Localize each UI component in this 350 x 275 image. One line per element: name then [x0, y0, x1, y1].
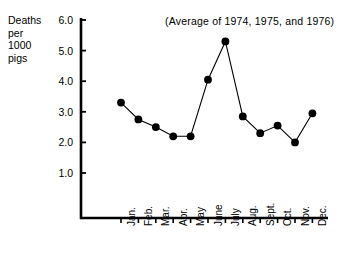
x-tick-label: July: [230, 208, 241, 226]
axes: [80, 18, 328, 219]
data-point: [239, 112, 247, 120]
data-point: [204, 76, 212, 84]
y-tick-label: 4.0: [47, 75, 73, 87]
x-tick-label: June: [213, 204, 224, 226]
x-tick-label: Dec.: [317, 205, 328, 226]
y-tick-label: 5.0: [47, 45, 73, 57]
x-tick-label: Oct.: [282, 208, 293, 226]
x-tick-label: Jan.: [126, 207, 137, 226]
data-point: [187, 132, 195, 140]
data-point: [152, 123, 160, 131]
data-point: [169, 132, 177, 140]
data-point: [222, 38, 230, 46]
y-tick-label: 3.0: [47, 106, 73, 118]
x-tick-label: Mar.: [160, 207, 171, 226]
y-tick-label: 2.0: [47, 136, 73, 148]
data-point: [135, 116, 143, 124]
y-tick-label: 1.0: [47, 167, 73, 179]
x-tick-label: Apr.: [178, 208, 189, 226]
data-series-line: [121, 41, 312, 142]
data-point: [309, 109, 317, 117]
x-tick-label: Sept.: [265, 203, 276, 226]
data-series-markers: [117, 38, 316, 147]
x-tick-label: Aug.: [247, 205, 258, 226]
data-point: [256, 129, 264, 137]
x-tick-label: Nov.: [300, 206, 311, 226]
data-point: [291, 139, 299, 147]
chart-figure: Deaths per 1000 pigs (Average of 1974, 1…: [0, 0, 350, 275]
data-point: [117, 99, 125, 107]
x-tick-label: May: [195, 207, 206, 226]
data-point: [274, 122, 282, 130]
y-tick-label: 6.0: [47, 14, 73, 26]
x-tick-label: Feb.: [143, 206, 154, 226]
